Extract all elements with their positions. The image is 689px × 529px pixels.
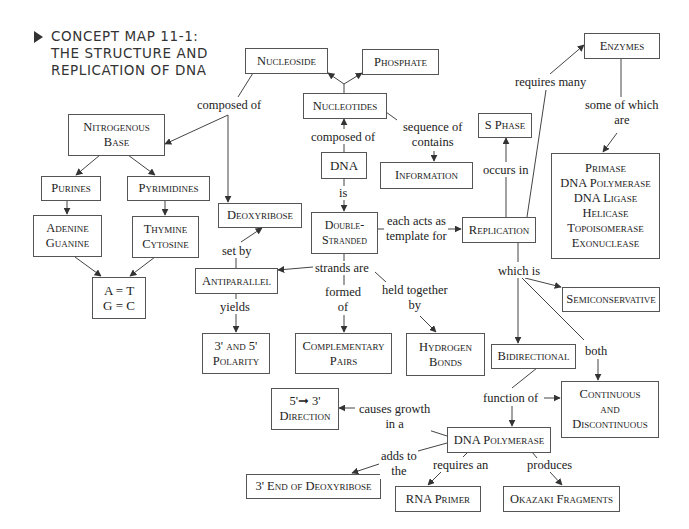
link-which-is: which is [497, 264, 541, 278]
node-deoxyribose: Deoxyribose [218, 203, 302, 228]
node-complementary-pairs: Complementary Pairs [295, 333, 392, 374]
node-label-line: Direction [279, 409, 330, 424]
node-base-pairs: A = T G = C [92, 277, 146, 319]
link-sequence-of: sequence of contains [402, 120, 463, 150]
enzyme-item: Primase [585, 161, 626, 176]
enzyme-item: DNA Polymerase [560, 176, 651, 191]
node-label-line: Continuous [580, 387, 641, 402]
node-label-line: Adenine [46, 221, 89, 236]
link-line: formed [325, 285, 361, 300]
node-label: DNA Polymerase [454, 433, 545, 448]
node-thymine-cytosine: Thymine Cytosine [132, 216, 199, 258]
link-yields: yields [219, 300, 251, 314]
node-label: Bidirectional [498, 349, 570, 364]
link-composed-of-1: composed of [196, 98, 262, 112]
node-nitrogenous-base: Nitrogenous Base [68, 114, 165, 156]
node-label-line: Polarity [213, 354, 259, 369]
node-label: Enzymes [600, 39, 645, 54]
link-causes-growth: causes growth in a [358, 402, 431, 432]
node-label-line: Complementary [302, 339, 384, 354]
link-line: in a [359, 417, 430, 432]
node-purines: Purines [41, 176, 101, 201]
link-composed-of-2: composed of [310, 130, 376, 144]
enzyme-item: Topoisomerase [567, 221, 644, 236]
link-line: template for [386, 229, 447, 244]
link-line: each acts as [386, 214, 447, 229]
node-dna-polymerase: DNA Polymerase [447, 427, 551, 453]
node-adenine-guanine: Adenine Guanine [33, 215, 102, 257]
node-pyrimidines: Pyrimidines [127, 176, 210, 201]
node-dna: DNA [321, 152, 367, 179]
node-label: Semiconservative [566, 292, 656, 307]
node-label: Pyrimidines [139, 181, 199, 196]
node-label: RNA Primer [406, 492, 470, 507]
node-information: Information [380, 162, 473, 189]
link-line: causes growth [359, 402, 430, 417]
link-line: the [381, 464, 417, 479]
node-label-line: Base [104, 135, 129, 150]
link-both: both [584, 344, 608, 358]
link-formed-of: formed of [324, 285, 362, 315]
node-antiparallel: Antiparallel [195, 268, 278, 294]
node-label-line: and [600, 402, 620, 417]
node-enzymes: Enzymes [584, 33, 660, 59]
node-polarity: 3' and 5' Polarity [202, 333, 270, 374]
link-produces: produces [526, 458, 573, 472]
node-label: Nucleoside [257, 54, 316, 69]
node-bidirectional: Bidirectional [491, 344, 576, 369]
enzyme-item: Exonuclease [572, 236, 640, 251]
link-line: contains [403, 135, 462, 150]
link-occurs-in: occurs in [482, 163, 529, 177]
node-nucleotides: Nucleotides [303, 93, 387, 119]
node-label: Information [395, 168, 458, 183]
link-requires-many: requires many [514, 75, 587, 89]
node-label-line: G = C [103, 298, 135, 313]
link-line: held together [382, 283, 448, 298]
link-adds-to-the: adds to the [380, 449, 418, 479]
node-hydrogen-bonds: Hydrogen Bonds [406, 333, 485, 376]
node-continuous-discontinuous: Continuous and Discontinuous [561, 381, 659, 438]
node-label-line: A = T [104, 283, 134, 298]
node-label: Deoxyribose [227, 208, 293, 223]
node-label: 3' End of Deoxyribose [255, 479, 371, 494]
node-rna-primer: RNA Primer [395, 486, 481, 512]
node-label: Replication [469, 223, 529, 238]
node-replication: Replication [462, 217, 536, 243]
link-line: by [382, 298, 448, 313]
node-label-line: Pairs [330, 354, 357, 369]
node-three-prime-end: 3' End of Deoxyribose [246, 474, 381, 499]
node-okazaki-fragments: Okazaki Fragments [503, 486, 620, 512]
node-label: Purines [51, 181, 90, 196]
link-strands-are: strands are [314, 261, 370, 275]
node-phosphate: Phosphate [362, 49, 439, 75]
node-label-line: Guanine [46, 236, 90, 251]
node-label: Phosphate [374, 55, 427, 70]
node-enzyme-list: Primase DNA Polymerase DNA Ligase Helica… [551, 153, 660, 259]
node-label-line: Bonds [429, 355, 462, 370]
link-set-by: set by [221, 244, 253, 258]
node-label: DNA [330, 158, 358, 173]
node-label-line: Hydrogen [419, 340, 472, 355]
node-label: Okazaki Fragments [510, 492, 613, 507]
enzyme-item: DNA Ligase [574, 191, 638, 206]
node-label: Nucleotides [313, 99, 378, 114]
node-label-line: Double- [325, 218, 364, 233]
link-function-of: function of [482, 391, 539, 405]
node-semiconservative: Semiconservative [562, 287, 660, 312]
node-label-line: Thymine [144, 222, 188, 237]
link-held-together-by: held together by [381, 283, 449, 313]
link-line: sequence of [403, 120, 462, 135]
node-double-stranded: Double- Stranded [311, 212, 378, 254]
link-requires-an: requires an [432, 458, 489, 472]
node-label-line: 3' and 5' [215, 339, 258, 354]
link-line: are [585, 113, 659, 128]
node-s-phase: S Phase [478, 113, 532, 138]
link-line: adds to [381, 449, 417, 464]
node-label-line: 5'➞ 3' [289, 394, 320, 409]
node-label-line: Cytosine [142, 237, 189, 252]
link-each-acts-as: each acts as template for [385, 214, 448, 244]
enzyme-item: Helicase [582, 206, 628, 221]
node-label: S Phase [485, 118, 526, 133]
node-label-line: Discontinuous [572, 417, 648, 432]
link-some-of-which: some of which are [584, 98, 660, 128]
